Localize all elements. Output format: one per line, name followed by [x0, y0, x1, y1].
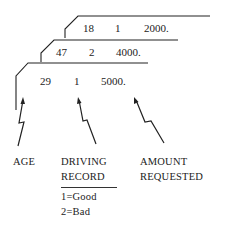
card-middle-age: 47 [56, 46, 67, 58]
label-age: AGE [13, 154, 35, 169]
card-back-amount: 2000. [144, 22, 169, 34]
card-back-driving-record: 1 [115, 22, 121, 34]
card-outlines [0, 0, 229, 230]
label-driving-record-line2: RECORD [61, 169, 107, 184]
card-front-age: 29 [40, 75, 51, 87]
card-middle-driving-record: 2 [89, 46, 95, 58]
label-amount-requested: AMOUNT REQUESTED [140, 154, 203, 184]
card-front-amount: 5000. [101, 75, 126, 87]
label-amount-line2: REQUESTED [140, 169, 203, 184]
label-driving-record-line1: DRIVING [61, 154, 107, 169]
legend-bad: 2=Bad [61, 204, 97, 219]
card-middle-amount: 4000. [116, 46, 141, 58]
arrow-age [18, 100, 24, 146]
driving-record-legend: 1=Good 2=Bad [61, 189, 97, 219]
card-front-driving-record: 1 [74, 75, 80, 87]
label-amount-line1: AMOUNT [140, 154, 203, 169]
legend-good: 1=Good [61, 189, 97, 204]
legend-divider [61, 187, 117, 188]
card-back-age: 18 [83, 22, 94, 34]
arrow-driving-record [79, 100, 96, 144]
arrowhead-age [21, 97, 26, 104]
arrow-amount [136, 100, 164, 143]
label-driving-record: DRIVING RECORD [61, 154, 107, 184]
arrowhead-driving-record [77, 97, 82, 104]
card-outline-front [16, 63, 148, 110]
